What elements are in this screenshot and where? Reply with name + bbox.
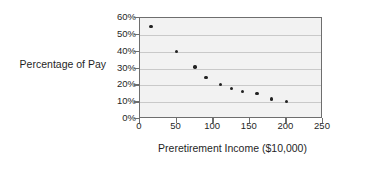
y-axis-tick-label: 40%: [106, 46, 136, 56]
x-axis-tick-label: 0: [122, 121, 156, 131]
y-axis-tick-labels: 0%10%20%30%40%50%60%: [106, 17, 136, 118]
gridline: [140, 35, 321, 36]
x-axis-tick-label: 200: [268, 121, 302, 131]
y-axis-tick-label: 60%: [106, 12, 136, 22]
x-axis-tick-label: 50: [159, 121, 193, 131]
gridline: [140, 102, 321, 103]
x-axis-tick-label: 100: [195, 121, 229, 131]
scatter-chart-figure: Percentage of Pay 0%10%20%30%40%50%60% 0…: [0, 0, 375, 169]
data-point: [204, 76, 207, 79]
x-axis-title: Preretirement Income ($10,000): [110, 142, 355, 154]
data-point: [255, 92, 258, 95]
plot-area: [139, 17, 322, 118]
data-point: [230, 87, 233, 90]
gridline: [140, 52, 321, 53]
data-point: [285, 100, 288, 103]
data-point: [270, 97, 273, 100]
x-axis-tick-label: 250: [305, 121, 339, 131]
y-axis-tick-label: 50%: [106, 29, 136, 39]
y-axis-tick-label: 20%: [106, 79, 136, 89]
y-axis-title: Percentage of Pay: [14, 58, 106, 70]
data-point: [241, 90, 244, 93]
x-axis-tick-label: 150: [232, 121, 266, 131]
data-point: [175, 50, 178, 53]
data-point: [149, 25, 152, 28]
y-axis-tick-label: 10%: [106, 96, 136, 106]
y-axis-tick-label: 30%: [106, 63, 136, 73]
data-point: [193, 65, 196, 68]
x-axis-tick-labels: 050100150200250: [139, 121, 322, 135]
gridline: [140, 69, 321, 70]
